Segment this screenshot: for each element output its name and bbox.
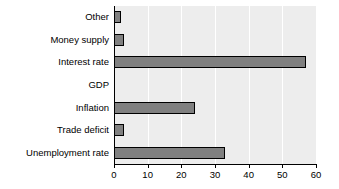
x-axis-tick [148,164,149,168]
x-axis-tick-label: 50 [277,169,288,181]
x-axis-tick [114,164,115,168]
x-axis-tick-label: 0 [111,169,116,181]
bar[interactable] [114,11,121,23]
plot-area [114,6,316,164]
x-axis-tick [249,164,250,168]
x-axis-tick-label: 10 [142,169,153,181]
bar[interactable] [114,102,195,114]
bar-row [114,34,316,46]
y-axis-label: GDP [0,79,109,90]
bar-row [114,79,316,91]
bar-row [114,147,316,159]
bars-layer [114,6,316,164]
bar-row [114,102,316,114]
bar[interactable] [114,34,124,46]
x-axis-ticks [114,164,316,168]
y-axis-label: Money supply [0,34,109,45]
bar-row [114,11,316,23]
x-axis-tick-label: 60 [311,169,322,181]
x-axis-tick [181,164,182,168]
x-axis-tick-label: 30 [210,169,221,181]
bar[interactable] [114,56,306,68]
x-axis-tick-labels: 0102030405060 [114,169,316,183]
y-axis-line [114,6,115,164]
y-axis-label: Inflation [0,102,109,113]
x-axis-tick-label: 20 [176,169,187,181]
gridline [316,6,317,164]
bar[interactable] [114,124,124,136]
y-axis-label: Unemployment rate [0,147,109,158]
bar[interactable] [114,147,225,159]
bar-chart: OtherMoney supplyInterest rateGDPInflati… [0,0,339,189]
x-axis-tick [215,164,216,168]
x-axis-tick [282,164,283,168]
x-axis-tick [316,164,317,168]
x-axis-tick-label: 40 [243,169,254,181]
bar-row [114,124,316,136]
y-axis-label: Other [0,11,109,22]
y-axis-category-labels: OtherMoney supplyInterest rateGDPInflati… [0,6,109,164]
y-axis-label: Interest rate [0,56,109,67]
bar-row [114,56,316,68]
y-axis-label: Trade deficit [0,124,109,135]
